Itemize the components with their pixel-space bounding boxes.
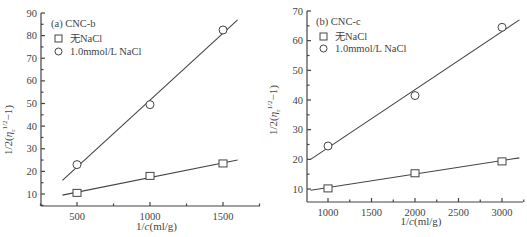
legend-circle-icon — [320, 45, 327, 52]
x-tick-label: 500 — [69, 211, 85, 222]
chart-panel-a: 10203040506070809050010001500(a) CNC-b无N… — [1, 8, 260, 234]
square-marker — [324, 185, 332, 192]
y-tick-label: 10 — [27, 189, 38, 200]
circle-marker — [498, 23, 506, 31]
legend-square-icon — [320, 33, 327, 40]
x-axis-label: 1/c(ml/g) — [401, 215, 442, 228]
x-tick-label: 1500 — [213, 211, 234, 222]
y-tick-label: 80 — [27, 30, 38, 41]
chart-panel-b: 1020304050607010001500200025003000(b) CN… — [266, 6, 524, 229]
square-marker — [146, 172, 154, 179]
legend-label: 无NaCl — [335, 31, 367, 42]
circle-marker — [324, 142, 332, 150]
x-tick-label: 1000 — [318, 207, 339, 218]
square-marker — [498, 158, 506, 165]
circle-marker — [411, 92, 419, 100]
y-tick-label: 60 — [293, 35, 304, 46]
x-axis-label: 1/c(ml/g) — [136, 220, 177, 233]
x-tick-label: 3000 — [492, 207, 513, 218]
square-marker — [411, 170, 419, 177]
square-marker — [73, 189, 81, 196]
y-tick-label: 50 — [27, 98, 38, 109]
legend-circle-icon — [55, 48, 62, 55]
y-tick-label: 60 — [27, 75, 38, 86]
legend-square-icon — [55, 35, 62, 42]
circle-marker — [146, 101, 154, 109]
y-tick-label: 10 — [293, 184, 304, 195]
x-tick-label: 1500 — [361, 207, 382, 218]
y-tick-label: 40 — [27, 121, 38, 132]
y-tick-label: 30 — [27, 143, 38, 154]
y-tick-label: 20 — [27, 166, 38, 177]
y-tick-label: 70 — [293, 6, 304, 17]
x-tick-label: 2500 — [448, 207, 469, 218]
legend-label: 无NaCl — [70, 33, 102, 44]
figure: 10203040506070809050010001500(a) CNC-b无N… — [0, 0, 527, 237]
y-tick-label: 20 — [293, 154, 304, 165]
y-tick-label: 30 — [293, 124, 304, 135]
panel-title: (a) CNC-b — [51, 18, 96, 30]
y-tick-label: 40 — [293, 95, 304, 106]
y-tick-label: 70 — [27, 53, 38, 64]
legend-label: 1.0mmol/L NaCl — [70, 46, 141, 57]
y-tick-label: 50 — [293, 65, 304, 76]
circle-marker — [219, 26, 227, 34]
legend-label: 1.0mmol/L NaCl — [335, 43, 406, 54]
y-axis-label: 1/2(ηr1/2−1) — [266, 85, 282, 135]
circle-marker — [73, 161, 81, 169]
y-tick-label: 90 — [27, 8, 38, 19]
square-marker — [219, 160, 227, 167]
y-axis-label: 1/2(ηr1/2−1) — [1, 105, 17, 155]
panel-title: (b) CNC-c — [316, 16, 361, 28]
